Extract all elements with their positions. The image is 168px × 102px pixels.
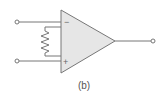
resistor-branch-wire: [45, 27, 61, 31]
resistor-icon: [41, 31, 49, 53]
noninverting-input-terminal: [15, 59, 19, 63]
noninverting-sign: +: [63, 57, 68, 67]
inverting-input-terminal: [15, 20, 19, 24]
resistor-branch-wire-bottom: [45, 53, 61, 56]
output-terminal: [151, 39, 155, 43]
figure-caption: (b): [0, 80, 168, 91]
inverting-sign: −: [64, 17, 69, 27]
